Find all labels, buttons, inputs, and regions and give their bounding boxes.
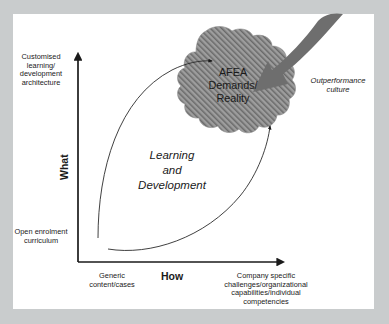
outperformance-culture-label: Outperformance culture [298, 76, 378, 95]
afea-blob-label: AFEA Demands/ Reality [196, 66, 270, 106]
figure-frame: Customised learning/ development archite… [0, 0, 389, 324]
x-axis-name: How [161, 270, 183, 282]
learning-development-label: Learning and Development [120, 148, 224, 193]
x-axis-high-label: Company specific challenges/organization… [207, 272, 325, 307]
y-axis-high-label: Customised learning/ development archite… [12, 53, 70, 88]
x-axis-low-label: Generic content/cases [79, 272, 145, 289]
y-axis-low-label: Open enrolment curriculum [8, 228, 74, 245]
y-axis-name: What [58, 154, 70, 180]
